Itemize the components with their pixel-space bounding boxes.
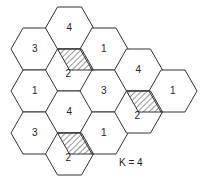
cluster-size-label: K = 4 xyxy=(119,157,143,168)
cell-label: 2 xyxy=(66,68,72,79)
cell-label: 4 xyxy=(67,106,73,117)
cell-label: 2 xyxy=(66,152,72,163)
cell-label: 3 xyxy=(32,43,38,54)
hex-grid: 3134242131421 xyxy=(0,0,211,185)
cell-label: 4 xyxy=(67,22,73,33)
cell-label: 2 xyxy=(135,110,141,121)
cell-label: 1 xyxy=(170,85,176,96)
cell-label: 4 xyxy=(136,64,142,75)
cell-label: 1 xyxy=(32,85,38,96)
cell-label: 3 xyxy=(32,127,38,138)
cell-label: 3 xyxy=(101,85,107,96)
cell-group: 3134242131421 xyxy=(11,7,197,175)
cell-label: 1 xyxy=(101,43,107,54)
cell-label: 1 xyxy=(101,127,107,138)
hexagonal-cell-diagram: 3134242131421 K = 4 xyxy=(0,0,211,185)
